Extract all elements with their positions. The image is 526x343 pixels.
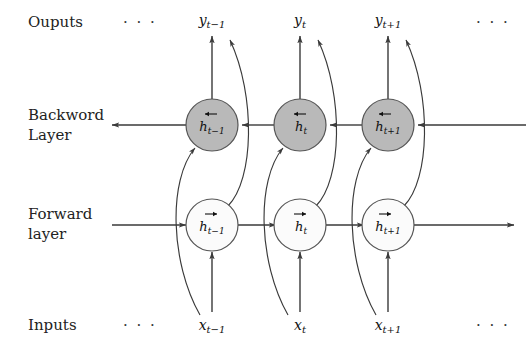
input-label-t-plus-1: xt+1: [375, 317, 402, 335]
backward-node-t-minus-1[interactable]: [186, 99, 238, 151]
bidirectional-rnn-diagram: Ouputs Backword Layer Forward layer Inpu…: [0, 0, 526, 343]
output-label-t-minus-1: yt−1: [198, 12, 226, 30]
input-label-t-minus-1: xt−1: [199, 317, 226, 335]
input-label-t: xt: [294, 317, 307, 335]
timestep-group-t: ht ht yt xt: [264, 12, 336, 335]
ellipsis-outputs-right: · · ·: [476, 13, 510, 31]
output-label-t: yt: [293, 12, 307, 30]
forward-node-t-minus-1[interactable]: [186, 199, 238, 251]
forward-node-t-plus-1[interactable]: [362, 199, 414, 251]
row-label-forward-line1: Forward: [28, 205, 93, 223]
row-label-backward-line2: Layer: [28, 126, 72, 144]
ellipsis-inputs-left: · · ·: [123, 316, 157, 334]
diagram-canvas: Ouputs Backword Layer Forward layer Inpu…: [0, 0, 526, 343]
row-label-inputs: Inputs: [28, 316, 77, 334]
row-label-forward-line2: layer: [28, 225, 67, 243]
ellipsis-inputs-right: · · ·: [476, 316, 510, 334]
timestep-group-t-plus-1: ht+1 ht+1 yt+1 xt+1: [352, 12, 424, 335]
row-label-outputs: Ouputs: [28, 13, 83, 31]
output-label-t-plus-1: yt+1: [374, 12, 402, 30]
timestep-group-t-minus-1: ht−1 ht−1 yt−1 xt−1: [176, 12, 248, 335]
backward-node-t-plus-1[interactable]: [362, 99, 414, 151]
row-label-backward-line1: Backword: [28, 106, 104, 124]
ellipsis-outputs-left: · · ·: [123, 13, 157, 31]
